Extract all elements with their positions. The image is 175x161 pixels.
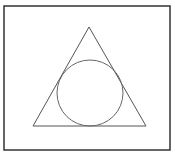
inscribed-circle: [57, 60, 123, 126]
frame-border: [4, 6, 170, 150]
triangle: [33, 27, 146, 126]
geometry-diagram: [0, 0, 175, 161]
